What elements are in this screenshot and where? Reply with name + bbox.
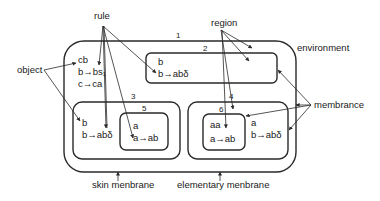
- membrane-3-objects: b: [82, 117, 87, 128]
- membrane-3-rule-1: b→abδ: [82, 129, 113, 140]
- membrane-1-rule-2: c→ca: [78, 78, 103, 89]
- membrane-4-rule-1: b→abδ: [251, 129, 282, 140]
- region-label: region: [211, 17, 237, 28]
- membrane-5-rule-1: a→ab: [133, 132, 158, 143]
- membrane-6-number: 6: [219, 105, 224, 114]
- membrane-diagram: 1 2 3 4 5 6 cb b→bs₁ c→ca b b→abδ b b→ab…: [0, 0, 380, 201]
- membrane-3-number: 3: [131, 92, 136, 101]
- membrane-1-objects: cb: [78, 54, 88, 65]
- membrane-1-rule-1: b→bs₁: [78, 66, 106, 77]
- membrane-2-rule-1: b→abδ: [158, 68, 189, 79]
- object-arrows: [44, 63, 80, 121]
- membrane-1-number: 1: [176, 31, 181, 40]
- object-label: object: [17, 64, 43, 75]
- membrane-2-number: 2: [203, 44, 208, 53]
- membrane-6-objects: aa: [210, 119, 221, 130]
- elementary-membrane-label: elementary menbrane: [177, 179, 269, 190]
- membrane-5-objects: a: [133, 120, 139, 131]
- membrance-label: membrance: [314, 99, 364, 110]
- environment-label: environment: [297, 42, 350, 53]
- membrane-6-rule-1: a→ab: [210, 133, 235, 144]
- membrane-2-objects: b: [158, 56, 163, 67]
- skin-membrane-label: skin menbrane: [92, 179, 154, 190]
- membrane-4-objects: a: [251, 117, 257, 128]
- membrane-5-number: 5: [142, 104, 147, 113]
- rule-label: rule: [94, 10, 110, 21]
